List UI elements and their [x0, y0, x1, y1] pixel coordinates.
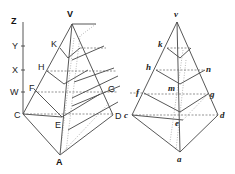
- label-G: G: [108, 84, 115, 94]
- label-Z: Z: [11, 16, 17, 26]
- label-g: g: [209, 89, 215, 99]
- label-h: h: [146, 62, 151, 72]
- left-figure: Z Y X W V K H F C E A D G: [10, 9, 122, 167]
- label-n: n: [206, 64, 211, 74]
- right-figure: v k h n f m g c e d a: [124, 9, 225, 164]
- label-d: d: [220, 110, 225, 120]
- label-A: A: [56, 157, 63, 167]
- label-Y: Y: [12, 41, 18, 51]
- label-e: e: [175, 118, 179, 128]
- label-H: H: [38, 62, 45, 72]
- label-k: k: [158, 39, 163, 49]
- label-K: K: [51, 39, 57, 49]
- label-m: m: [168, 83, 175, 93]
- label-X: X: [12, 65, 18, 75]
- label-V: V: [67, 9, 73, 19]
- geometry-diagram: Z Y X W V K H F C E A D G v k: [0, 0, 235, 174]
- label-f: f: [136, 87, 140, 97]
- label-a: a: [177, 154, 182, 164]
- label-v: v: [174, 9, 179, 19]
- label-D: D: [115, 111, 122, 121]
- label-C: C: [14, 110, 21, 120]
- label-F: F: [29, 83, 35, 93]
- label-W: W: [10, 87, 19, 97]
- label-E: E: [55, 120, 61, 130]
- label-c: c: [124, 110, 128, 120]
